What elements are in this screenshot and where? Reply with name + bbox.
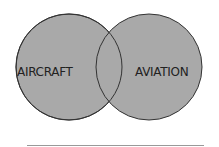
label-aircraft: AIRCRAFT (17, 65, 73, 79)
label-aviation: AVIATION (135, 65, 188, 79)
